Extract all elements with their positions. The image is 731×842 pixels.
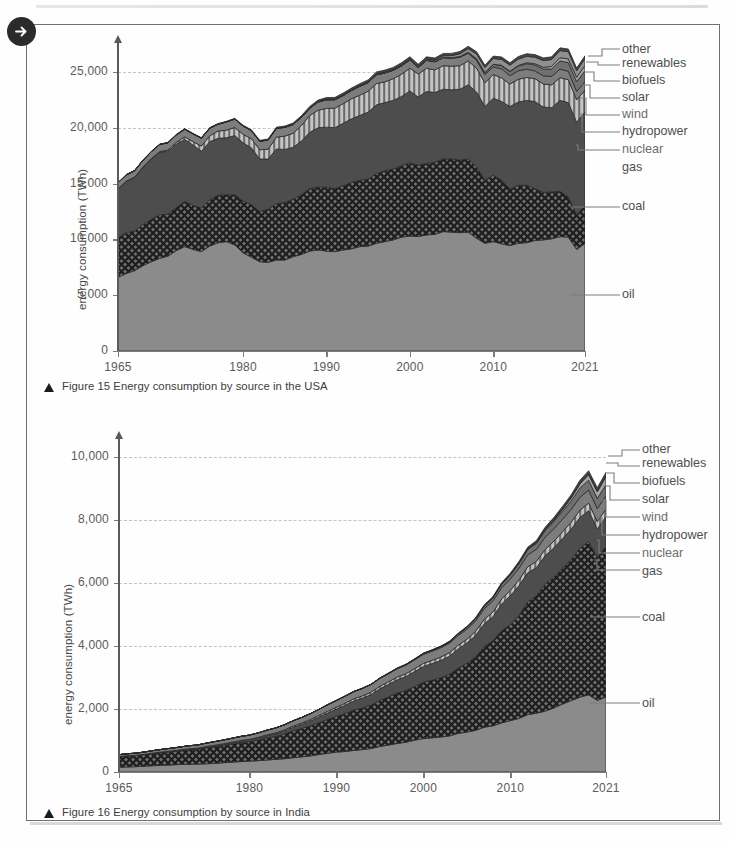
y-tick-label: 8,000	[61, 512, 109, 526]
chart2-legend-biofuels: biofuels	[642, 475, 685, 488]
x-tick-mark	[510, 772, 511, 778]
figure-16-caption-marker	[44, 809, 54, 818]
y-tick-label: 6,000	[61, 575, 109, 589]
figure-16-caption: Figure 16 Energy consumption by source i…	[62, 806, 310, 818]
arrow-right-circle-icon[interactable]	[7, 17, 36, 46]
x-tick-mark	[606, 772, 607, 778]
figure-16-block: energy consumption (TWh) 02,0004,0006,00…	[0, 0, 731, 842]
x-tick-mark	[336, 772, 337, 778]
x-tick-label: 1965	[101, 781, 137, 795]
chart2-legend-nuclear: nuclear	[642, 547, 683, 560]
x-tick-label: 1980	[231, 781, 267, 795]
y-tick-label: 0	[61, 764, 109, 778]
chart2-legend-other: other	[642, 443, 671, 456]
x-tick-mark	[249, 772, 250, 778]
chart2-legend-coal: coal	[642, 611, 665, 624]
chart2-legend-oil: oil	[642, 697, 655, 710]
chart2-x-axis	[118, 772, 607, 773]
x-tick-label: 2010	[492, 781, 528, 795]
page-canvas: energy consumption (TWh) 05,00010,00015,…	[0, 0, 731, 842]
x-tick-label: 2021	[588, 781, 624, 795]
chart2-plot-area	[119, 441, 606, 772]
x-tick-mark	[119, 772, 120, 778]
x-tick-mark	[423, 772, 424, 778]
y-tick-label: 10,000	[61, 449, 109, 463]
chart2-legend-renewables: renewables	[642, 457, 706, 470]
y-tick-label: 2,000	[61, 701, 109, 715]
x-tick-label: 1990	[318, 781, 354, 795]
chart2-legend-leaders	[588, 440, 648, 720]
chart2-legend-solar: solar	[642, 493, 669, 506]
chart2-legend-gas: gas	[642, 565, 662, 578]
chart2-y-axis	[118, 438, 120, 772]
chart2-legend-hydropower: hydropower	[642, 529, 708, 542]
chart2-legend-wind: wind	[642, 511, 668, 524]
x-tick-label: 2000	[405, 781, 441, 795]
y-tick-label: 4,000	[61, 638, 109, 652]
